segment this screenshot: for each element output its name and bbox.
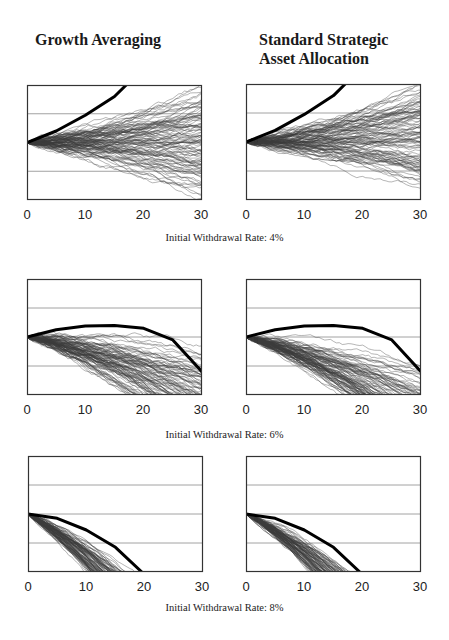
x-tick: 20: [136, 207, 150, 222]
x-tick: 20: [355, 207, 369, 222]
chart-standard-allocation-6pct: [246, 279, 421, 395]
x-tick: 0: [24, 579, 31, 594]
chart-growth-averaging-4pct: [27, 85, 202, 200]
x-tick: 20: [136, 402, 150, 417]
x-tick: 10: [78, 207, 92, 222]
x-tick: 10: [297, 402, 311, 417]
x-tick: 10: [297, 579, 311, 594]
x-tick: 10: [78, 402, 92, 417]
chart-growth-averaging-8pct: [28, 456, 203, 572]
caption-8pct: Initial Withdrawal Rate: 8%: [0, 602, 449, 613]
x-tick: 30: [413, 207, 427, 222]
x-tick: 30: [413, 402, 427, 417]
x-tick: 0: [23, 207, 30, 222]
x-tick: 10: [297, 207, 311, 222]
x-tick: 0: [242, 207, 249, 222]
x-tick: 30: [413, 579, 427, 594]
caption-6pct: Initial Withdrawal Rate: 6%: [0, 429, 449, 440]
x-tick: 0: [23, 402, 30, 417]
x-tick: 30: [195, 579, 209, 594]
x-tick: 30: [194, 402, 208, 417]
x-tick: 0: [242, 402, 249, 417]
x-tick: 10: [79, 579, 93, 594]
x-tick: 20: [355, 402, 369, 417]
x-tick: 20: [355, 579, 369, 594]
chart-standard-allocation-4pct: [246, 84, 421, 200]
chart-growth-averaging-6pct: [27, 279, 202, 395]
x-tick: 30: [194, 207, 208, 222]
header-standard-strategic: Standard Strategic Asset Allocation: [259, 30, 419, 68]
header-growth-averaging: Growth Averaging: [35, 30, 161, 49]
x-tick: 20: [137, 579, 151, 594]
chart-standard-allocation-8pct: [246, 456, 421, 572]
x-tick: 0: [242, 579, 249, 594]
caption-4pct: Initial Withdrawal Rate: 4%: [0, 232, 449, 243]
